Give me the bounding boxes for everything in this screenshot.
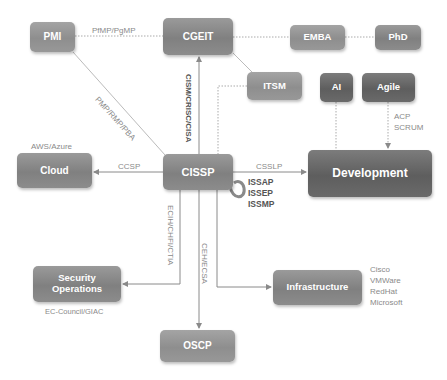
edge-label-pfmp-pgmp: PfMP/PgMP: [92, 26, 136, 35]
annotation-aws-azure: AWS/Azure: [31, 142, 72, 151]
node-phd: PhD: [375, 25, 421, 50]
node-oscp: OSCP: [160, 330, 235, 362]
edge-label-acp: ACP: [394, 112, 410, 121]
edge-label-ecih-chfi-ctia: ECIH/CHFI/CTIA: [166, 205, 175, 265]
edge-label-csslp: CSSLP: [256, 162, 282, 171]
node-ai: AI: [320, 73, 353, 102]
edge-label-issmp: ISSMP: [248, 199, 274, 209]
edge-label-issap: ISSAP: [248, 177, 274, 187]
edge-label-ceh-ecsa: CEH/ECSA: [200, 243, 209, 284]
annotation-vmware: VMWare: [370, 276, 401, 285]
edge-label-scrum: SCRUM: [394, 123, 423, 132]
annotation-microsoft: Microsoft: [370, 298, 402, 307]
node-itsm: ITSM: [247, 72, 302, 100]
node-emba: EMBA: [290, 25, 345, 50]
node-cloud: Cloud: [17, 153, 92, 188]
edge-label-issep: ISSEP: [248, 188, 273, 198]
annotation-ec-council-giac: EC-Council/GIAC: [45, 307, 103, 316]
certification-roadmap-diagram: PMI CGEIT EMBA PhD ITSM AI Agile Cloud C…: [0, 0, 447, 380]
edge-label-ccsp: CCSP: [118, 162, 140, 171]
node-cissp: CISSP: [163, 154, 233, 190]
node-development: Development: [308, 150, 432, 197]
node-agile: Agile: [362, 73, 415, 102]
node-pmi: PMI: [30, 22, 75, 52]
annotation-cisco: Cisco: [370, 265, 390, 274]
node-security-operations: Security Operations: [33, 266, 121, 302]
annotation-redhat: RedHat: [370, 287, 397, 296]
node-infrastructure: Infrastructure: [273, 270, 362, 305]
edge-label-cism-crisc-cisa: CISM/CRISC/CISA: [184, 74, 193, 142]
node-cgeit: CGEIT: [163, 18, 233, 55]
